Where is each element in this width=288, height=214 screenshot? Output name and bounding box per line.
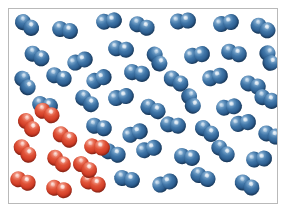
atom-sphere	[255, 150, 273, 168]
atom-sphere	[133, 65, 152, 84]
molecule-layer	[9, 9, 277, 203]
atom-sphere	[179, 12, 196, 29]
atom-sphere	[169, 117, 187, 135]
atom-sphere	[60, 22, 79, 41]
atom-sphere	[117, 41, 135, 59]
atom-sphere	[122, 171, 141, 190]
container-frame	[8, 8, 278, 204]
molecule-diagram	[0, 0, 288, 214]
atom-sphere	[183, 149, 202, 168]
